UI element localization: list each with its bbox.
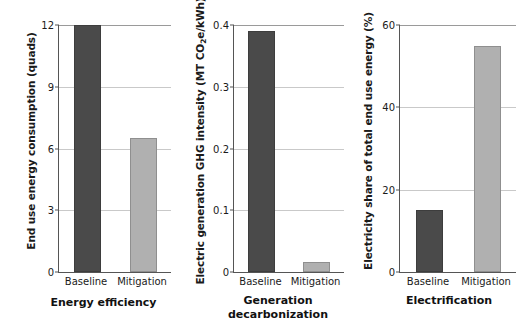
y-axis-label-wrap-panel-1: End use energy consumption (quads) xyxy=(20,10,42,272)
panel-title-generation-decarbonization: Generation decarbonization xyxy=(199,294,357,321)
y-axis-label-panel-2-part-a: Electric generation GHG intensity (MT CO xyxy=(194,44,206,285)
y-tick-label-40: 40 xyxy=(382,102,400,113)
y-axis-label-panel-2-subscript: 2 xyxy=(199,39,208,44)
bar-baseline-electrification[interactable] xyxy=(416,210,443,272)
y-tick-label-0-3: 0.3 xyxy=(213,81,234,92)
multi-panel-bar-chart-figure: End use energy consumption (quads) 12 9 … xyxy=(0,0,521,330)
bar-slot-baseline xyxy=(59,25,115,272)
bar-mitigation-generation-decarbonization[interactable] xyxy=(303,262,330,273)
x-tick-label-baseline: Baseline xyxy=(399,276,457,287)
x-axis-category-labels-panel-3: Baseline Mitigation xyxy=(399,276,515,287)
y-tick-label-3: 3 xyxy=(48,205,59,216)
y-tick-label-12: 12 xyxy=(41,20,59,31)
panel-title-line-2: decarbonization xyxy=(199,308,357,322)
panel-energy-efficiency: End use energy consumption (quads) 12 9 … xyxy=(0,0,185,330)
x-tick-label-mitigation: Mitigation xyxy=(457,276,515,287)
x-axis-category-labels-panel-1: Baseline Mitigation xyxy=(58,276,170,287)
y-tick-label-9: 9 xyxy=(48,81,59,92)
y-tick-label-0-2: 0.2 xyxy=(213,143,234,154)
bar-slot-baseline xyxy=(400,25,458,272)
y-axis-label-panel-1: End use energy consumption (quads) xyxy=(25,32,37,249)
bars-container-panel-3 xyxy=(400,25,516,272)
y-axis-label-panel-2: Electric generation GHG intensity (MT CO… xyxy=(194,0,206,285)
bar-slot-mitigation xyxy=(115,25,171,272)
bars-container-panel-2 xyxy=(234,25,344,272)
y-axis-label-panel-3: Electricity share of total end use energ… xyxy=(362,12,374,270)
panel-title-electrification: Electrification xyxy=(377,294,521,308)
bars-container-panel-1 xyxy=(59,25,171,272)
y-axis-label-wrap-panel-2: Electric generation GHG intensity (MT CO… xyxy=(189,10,211,272)
x-tick-label-mitigation: Mitigation xyxy=(114,276,170,287)
x-tick-label-baseline: Baseline xyxy=(233,276,288,287)
y-tick-label-60: 60 xyxy=(382,20,400,31)
bar-mitigation-electrification[interactable] xyxy=(474,46,501,272)
bar-baseline-generation-decarbonization[interactable] xyxy=(248,31,275,272)
plot-area-panel-1: 12 9 6 3 0 xyxy=(58,25,171,273)
bar-slot-mitigation xyxy=(289,25,344,272)
panel-title-line-1: Generation xyxy=(199,294,357,308)
x-tick-label-mitigation: Mitigation xyxy=(288,276,343,287)
x-tick-label-baseline: Baseline xyxy=(58,276,114,287)
y-tick-label-6: 6 xyxy=(48,143,59,154)
y-axis-label-wrap-panel-3: Electricity share of total end use energ… xyxy=(357,10,379,272)
bar-slot-mitigation xyxy=(458,25,516,272)
x-axis-category-labels-panel-2: Baseline Mitigation xyxy=(233,276,343,287)
y-tick-label-0-4: 0.4 xyxy=(213,20,234,31)
y-tick-label-20: 20 xyxy=(382,184,400,195)
panel-electrification: Electricity share of total end use energ… xyxy=(357,0,521,330)
panel-title-energy-efficiency: Energy efficiency xyxy=(30,296,177,310)
plot-area-panel-3: 60 40 20 0 xyxy=(399,25,516,273)
panel-generation-decarbonization: Electric generation GHG intensity (MT CO… xyxy=(185,0,357,330)
bar-baseline-energy-efficiency[interactable] xyxy=(74,25,101,272)
plot-area-panel-2: 0.4 0.3 0.2 0.1 0 xyxy=(233,25,344,273)
y-axis-label-panel-2-part-b: e/kWh) xyxy=(194,0,206,39)
y-tick-label-0-1: 0.1 xyxy=(213,205,234,216)
bar-slot-baseline xyxy=(234,25,289,272)
bar-mitigation-energy-efficiency[interactable] xyxy=(130,138,157,272)
